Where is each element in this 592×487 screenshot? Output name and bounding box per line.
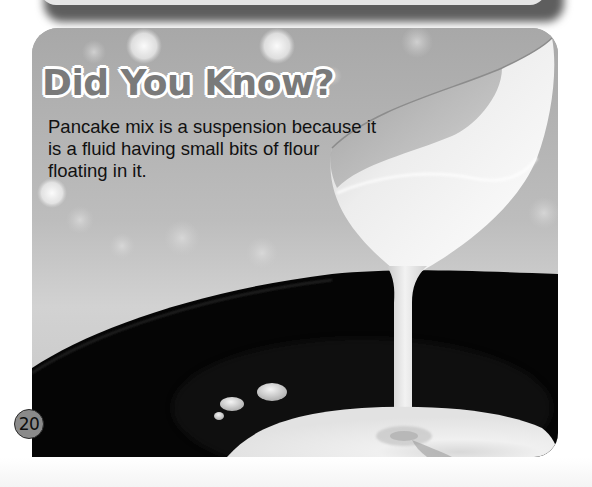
batter-droplet-large — [257, 383, 287, 401]
textbook-page: Did You Know? Pancake mix is a suspensio… — [0, 0, 592, 487]
batter-droplet-medium — [220, 397, 244, 411]
bokeh-light — [109, 233, 135, 259]
batter-droplet-small — [214, 412, 224, 420]
page-number: 20 — [19, 414, 40, 434]
bokeh-light — [66, 206, 94, 234]
bokeh-light — [126, 28, 162, 64]
bokeh-light — [82, 40, 106, 64]
bokeh-light — [37, 178, 67, 208]
previous-content-box — [40, 0, 546, 5]
did-you-know-title: Did You Know? — [42, 62, 334, 103]
bokeh-light — [164, 220, 200, 256]
did-you-know-photo-panel: Did You Know? Pancake mix is a suspensio… — [32, 28, 558, 457]
bokeh-light — [259, 28, 295, 64]
bokeh-light — [246, 237, 278, 269]
batter-impact — [390, 431, 418, 441]
page-number-badge: 20 — [14, 409, 44, 439]
did-you-know-body: Pancake mix is a suspension because it i… — [48, 116, 378, 182]
